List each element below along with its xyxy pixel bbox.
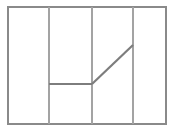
figure-canvas (0, 0, 174, 131)
diagonal-segment (92, 45, 133, 84)
line-diagram (0, 0, 174, 131)
outer-rectangle (8, 7, 166, 124)
